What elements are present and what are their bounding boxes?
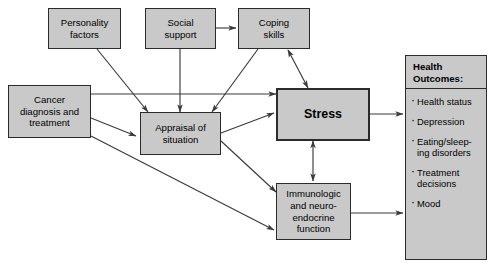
- health-outcomes-heading: HealthOutcomes:: [406, 56, 486, 89]
- node-appraisal-of-situation-label: Appraisal ofsituation: [152, 122, 209, 145]
- health-outcomes-list: Health status Depression Eating/sleep-in…: [406, 89, 486, 209]
- node-appraisal-of-situation[interactable]: Appraisal ofsituation: [140, 112, 221, 155]
- edge-cancer-to-appraisal: [91, 118, 136, 136]
- node-social-support-label: Socialsupport: [162, 17, 200, 40]
- edge-coping-to-appraisal: [212, 49, 258, 112]
- health-outcome-item: Depression: [412, 116, 482, 127]
- edge-coping-stress-bidirectional: [288, 50, 308, 88]
- edge-appraisal-to-stress: [221, 113, 274, 133]
- node-stress[interactable]: Stress: [276, 88, 370, 141]
- node-cancer-diagnosis-treatment[interactable]: Cancerdiagnosis andtreatment: [8, 85, 91, 138]
- node-stress-label: Stress: [301, 109, 345, 121]
- node-coping-skills-label: Copingskills: [256, 17, 292, 40]
- stress-cancer-diagram: Personalityfactors Socialsupport Copings…: [0, 0, 495, 270]
- node-personality-factors[interactable]: Personalityfactors: [48, 8, 121, 49]
- node-personality-factors-label: Personalityfactors: [58, 17, 111, 40]
- health-outcome-item: Eating/sleep-ing disorders: [412, 136, 482, 158]
- node-immunologic-neuroendocrine-function-label: Immunologicand neuro-endocrinefunction: [283, 188, 343, 234]
- edge-personality-to-appraisal: [97, 49, 148, 112]
- health-outcome-item: Mood: [412, 198, 482, 209]
- node-coping-skills[interactable]: Copingskills: [238, 8, 310, 49]
- health-outcome-item: Treatmentdecisions: [412, 167, 482, 189]
- health-outcome-item: Health status: [412, 96, 482, 107]
- node-immunologic-neuroendocrine-function[interactable]: Immunologicand neuro-endocrinefunction: [276, 183, 351, 240]
- node-cancer-diagnosis-treatment-label: Cancerdiagnosis andtreatment: [17, 94, 82, 129]
- panel-health-outcomes[interactable]: HealthOutcomes: Health status Depression…: [405, 55, 487, 260]
- node-social-support[interactable]: Socialsupport: [145, 8, 216, 49]
- edge-appraisal-to-immunologic: [221, 141, 276, 192]
